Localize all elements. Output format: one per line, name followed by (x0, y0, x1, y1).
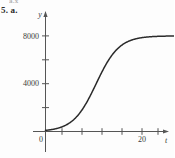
logistic-growth-chart: 8000 4000 20 0 y t (0, 0, 174, 158)
figure-page: a.x 5. a. 8000 4000 20 0 y (0, 0, 174, 158)
origin-label: 0 (39, 135, 43, 144)
y-axis-label: y (37, 10, 42, 19)
y-tick-label-8000: 8000 (23, 32, 39, 41)
y-tick-label-4000: 4000 (23, 79, 39, 88)
x-axis-arrowhead (163, 129, 169, 133)
logistic-curve (46, 36, 175, 130)
x-tick-label-20: 20 (138, 135, 146, 144)
x-axis-label: t (165, 136, 168, 145)
y-axis-arrowhead (43, 11, 47, 17)
